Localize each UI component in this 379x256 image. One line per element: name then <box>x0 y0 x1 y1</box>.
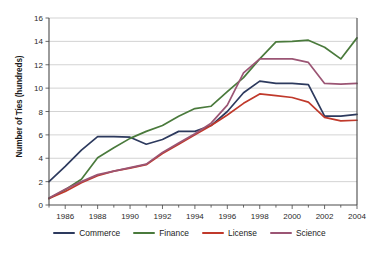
y-tick-label: 10 <box>34 84 43 93</box>
legend-swatch-icon <box>133 232 155 234</box>
legend-item-finance[interactable]: Finance <box>133 228 189 238</box>
x-tick-label: 2000 <box>283 212 301 221</box>
x-tick-label: 1994 <box>186 212 204 221</box>
x-tick-label: 1992 <box>154 212 172 221</box>
x-tick-label: 1986 <box>56 212 74 221</box>
legend-label: Science <box>296 228 326 238</box>
legend-label: License <box>228 228 257 238</box>
y-tick-label: 4 <box>39 154 44 163</box>
y-tick-label: 8 <box>39 108 44 117</box>
chart-legend: CommerceFinanceLicenseScience <box>0 228 379 238</box>
y-tick-label: 12 <box>34 61 43 70</box>
series-line-commerce <box>49 81 357 182</box>
x-tick-label: 1998 <box>251 212 269 221</box>
line-chart: Number of Ties (hundreds) 0246810121416 … <box>0 0 379 256</box>
x-tick-label: 2002 <box>316 212 334 221</box>
series-lines <box>49 38 357 199</box>
x-axis-ticks <box>49 205 357 209</box>
series-line-license <box>49 94 357 199</box>
legend-swatch-icon <box>270 232 292 234</box>
x-tick-label: 1996 <box>218 212 236 221</box>
gridlines <box>49 18 357 182</box>
x-axis-tick-labels: 1986198819901992199419961998200020022004 <box>56 212 366 221</box>
y-axis-tick-labels: 0246810121416 <box>34 14 43 210</box>
plot-area: 0246810121416 19861988199019921994199619… <box>0 0 379 256</box>
y-tick-label: 2 <box>39 178 44 187</box>
series-line-finance <box>49 38 357 199</box>
legend-swatch-icon <box>53 232 75 234</box>
legend-swatch-icon <box>202 232 224 234</box>
x-tick-label: 2004 <box>348 212 366 221</box>
y-tick-label: 14 <box>34 37 43 46</box>
legend-label: Commerce <box>79 228 120 238</box>
legend-item-license[interactable]: License <box>202 228 257 238</box>
x-tick-label: 1990 <box>121 212 139 221</box>
legend-label: Finance <box>159 228 189 238</box>
x-tick-label: 1988 <box>89 212 107 221</box>
legend-item-commerce[interactable]: Commerce <box>53 228 120 238</box>
y-tick-label: 0 <box>39 201 44 210</box>
y-tick-label: 16 <box>34 14 43 23</box>
y-tick-label: 6 <box>39 131 44 140</box>
legend-item-science[interactable]: Science <box>270 228 326 238</box>
